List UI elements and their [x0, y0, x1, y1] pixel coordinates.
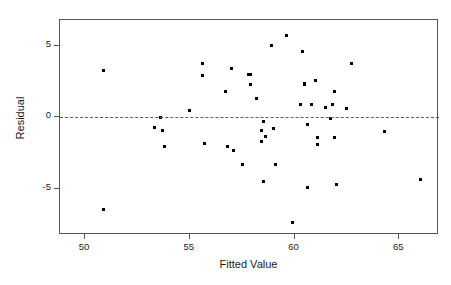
scatter-point: [310, 103, 313, 106]
scatter-point: [230, 67, 233, 70]
zero-residual-line: [60, 117, 439, 118]
scatter-point: [324, 106, 327, 109]
scatter-point: [306, 186, 309, 189]
scatter-point: [335, 183, 338, 186]
scatter-point: [383, 130, 386, 133]
x-tick-label: 50: [64, 241, 104, 252]
scatter-point: [255, 97, 258, 100]
scatter-point: [316, 136, 319, 139]
scatter-point: [201, 74, 204, 77]
scatter-point: [153, 126, 156, 129]
x-tick-label: 65: [378, 241, 418, 252]
scatter-point: [299, 103, 302, 106]
scatter-point: [306, 123, 309, 126]
scatter-point: [226, 145, 229, 148]
y-tick-label: 5: [20, 38, 51, 49]
scatter-point: [161, 129, 164, 132]
scatter-point: [102, 208, 105, 211]
scatter-point: [270, 44, 273, 47]
x-tick-label: 60: [274, 241, 314, 252]
scatter-point: [301, 50, 304, 53]
scatter-point: [249, 73, 252, 76]
scatter-point: [350, 62, 353, 65]
scatter-point: [203, 142, 206, 145]
scatter-point: [262, 120, 265, 123]
scatter-points-layer: [60, 20, 437, 233]
scatter-point: [232, 149, 235, 152]
scatter-point: [260, 140, 263, 143]
scatter-point: [291, 221, 294, 224]
x-axis-label: Fitted Value: [59, 258, 438, 270]
x-tick-mark: [84, 234, 85, 239]
scatter-point: [260, 129, 263, 132]
scatter-point: [272, 127, 275, 130]
x-tick-label: 55: [169, 241, 209, 252]
scatter-point: [163, 145, 166, 148]
plot-area: [59, 19, 438, 234]
scatter-point: [249, 83, 252, 86]
scatter-point: [333, 90, 336, 93]
scatter-point: [316, 143, 319, 146]
scatter-point: [419, 178, 422, 181]
y-tick-label: -5: [20, 181, 51, 192]
scatter-point: [314, 79, 317, 82]
x-tick-mark: [294, 234, 295, 239]
scatter-point: [303, 82, 306, 85]
scatter-point: [262, 180, 265, 183]
scatter-point: [188, 109, 191, 112]
x-tick-mark: [398, 234, 399, 239]
scatter-point: [345, 107, 348, 110]
scatter-point: [264, 135, 267, 138]
scatter-point: [333, 136, 336, 139]
y-tick-label: 0: [20, 109, 51, 120]
scatter-point: [285, 34, 288, 37]
scatter-point: [201, 62, 204, 65]
x-tick-mark: [189, 234, 190, 239]
scatter-point: [102, 69, 105, 72]
residual-plot-figure: Residual 50-5 50556065 Fitted Value: [0, 0, 451, 285]
scatter-point: [331, 103, 334, 106]
scatter-point: [241, 163, 244, 166]
chart-title: [0, 0, 451, 14]
scatter-point: [224, 90, 227, 93]
scatter-point: [274, 163, 277, 166]
